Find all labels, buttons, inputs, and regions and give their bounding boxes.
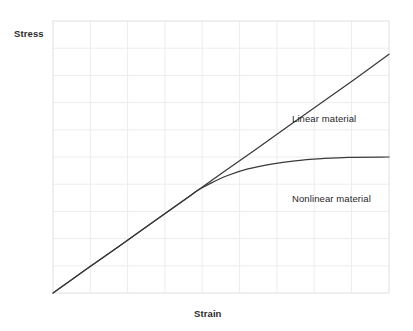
nonlinear-material-label: Nonlinear material xyxy=(292,193,371,204)
linear-material-label: Linear material xyxy=(292,113,356,124)
x-axis-label: Strain xyxy=(194,308,222,319)
stress-strain-figure: Stress Strain Linear material Nonlinear … xyxy=(0,0,413,331)
plot-area xyxy=(0,0,413,331)
y-axis-label: Stress xyxy=(14,28,44,39)
